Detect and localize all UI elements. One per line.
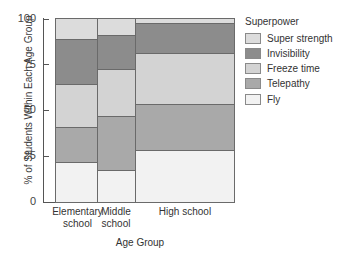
bar-segment-telepathy: [55, 127, 98, 163]
legend-label: Freeze time: [267, 63, 320, 74]
legend-label: Super strength: [267, 33, 333, 44]
legend-label: Fly: [267, 94, 280, 105]
legend-swatch: [245, 94, 261, 105]
bar-segment-telepathy: [97, 116, 136, 171]
legend-label: Telepathy: [267, 78, 310, 89]
legend-title: Superpower: [245, 16, 299, 27]
bar-segment-fly: [97, 170, 136, 203]
bar-segment-super-strength: [135, 18, 235, 24]
x-category-high: High school: [140, 206, 230, 218]
bar-segment-super-strength: [55, 18, 98, 40]
bar-segment-fly: [55, 162, 98, 203]
bar-segment-freeze-time: [97, 69, 136, 117]
y-tick-label-100: 100: [14, 12, 36, 24]
bar-segment-super-strength: [97, 18, 136, 36]
x-axis-title: Age Group: [100, 237, 180, 248]
x-category-middle-line1: Middle: [96, 206, 136, 218]
y-tick-label-0: 0: [14, 195, 36, 207]
legend-swatch: [245, 33, 261, 44]
y-tick-75: [43, 64, 49, 65]
bar-segment-telepathy: [135, 104, 235, 152]
legend-item-telepathy: Telepathy: [245, 77, 310, 90]
x-category-middle-line2: school: [96, 218, 136, 230]
legend-item-fly: Fly: [245, 93, 280, 106]
legend-item-invisibility: Invisibility: [245, 47, 310, 60]
legend-item-super-strength: Super strength: [245, 32, 333, 45]
legend-label: Invisibility: [267, 48, 310, 59]
legend-swatch: [245, 63, 261, 74]
bar-segment-freeze-time: [55, 84, 98, 127]
bar-segment-fly: [135, 150, 235, 203]
bar-segment-freeze-time: [135, 53, 235, 105]
y-tick-25: [43, 156, 49, 157]
y-tick-50: [43, 110, 49, 111]
y-tick-100: [43, 19, 49, 20]
y-tick-label-50: 50: [14, 103, 36, 115]
bar-segment-invisibility: [135, 23, 235, 54]
legend-item-freeze-time: Freeze time: [245, 62, 320, 75]
y-tick-label-25: 25: [14, 149, 36, 161]
bar-segment-invisibility: [55, 39, 98, 85]
bar-segment-invisibility: [97, 35, 136, 69]
x-category-middle: Middle school: [96, 206, 136, 230]
legend-swatch: [245, 78, 261, 89]
legend-swatch: [245, 48, 261, 59]
y-tick-label-75: 75: [14, 58, 36, 70]
x-category-high-line1: High school: [140, 206, 230, 218]
